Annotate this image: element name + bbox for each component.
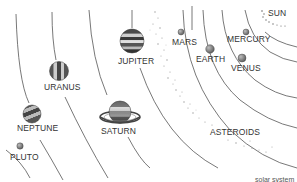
earth-icon — [206, 45, 215, 54]
label-venus: VENUS — [231, 64, 261, 73]
orbit-uranus-lower — [65, 97, 108, 178]
orbit-uranus — [52, 12, 56, 60]
orbit-jupiter — [140, 68, 218, 168]
jupiter-icon — [120, 29, 144, 53]
label-uranus: URANUS — [44, 83, 81, 92]
diagram-caption: solar system — [255, 176, 294, 182]
neptune-icon — [23, 105, 41, 123]
orbit-neptune-lower — [40, 140, 63, 180]
label-pluto: PLUTO — [10, 153, 39, 162]
label-sun: SUN — [268, 9, 286, 18]
label-jupiter: JUPITER — [118, 57, 154, 66]
label-saturn: SATURN — [101, 127, 136, 136]
orbit-neptune — [16, 14, 29, 103]
label-mercury: MERCURY — [227, 35, 271, 44]
orbit-saturn-lower — [128, 137, 150, 168]
orbit-saturn — [89, 10, 107, 95]
orbit-extra — [258, 42, 297, 60]
pluto-icon — [17, 143, 23, 149]
orbit-lines — [6, 6, 297, 180]
label-earth: EARTH — [196, 55, 225, 64]
uranus-icon — [50, 62, 69, 81]
label-mars: MARS — [172, 38, 197, 47]
saturn-icon — [100, 101, 140, 123]
label-asteroids: ASTEROIDS — [210, 128, 260, 137]
mars-icon — [178, 29, 184, 35]
venus-icon — [238, 54, 246, 62]
label-neptune: NEPTUNE — [17, 124, 58, 133]
orbit-venus — [222, 10, 297, 98]
